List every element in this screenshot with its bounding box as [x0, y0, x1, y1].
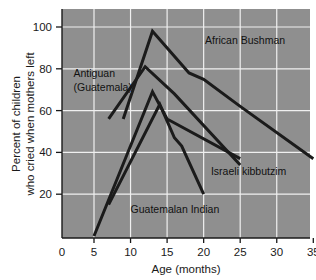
- y-tick-label: 100: [33, 21, 52, 33]
- y-axis-title-line1: Percent of children: [10, 76, 22, 172]
- y-axis-ticks: [56, 27, 62, 194]
- x-tick-label: 30: [270, 246, 283, 258]
- x-tick-label: 10: [124, 246, 137, 258]
- series-label-antiguan-line2: (Guatemala): [74, 81, 132, 93]
- y-tick-label: 40: [39, 146, 52, 158]
- x-tick-label: 5: [91, 246, 97, 258]
- x-axis-title: Age (months): [151, 263, 220, 275]
- y-axis-title-line2: who cried when mothers left: [24, 52, 36, 197]
- x-tick-label: 25: [234, 246, 247, 258]
- y-tick-label: 80: [39, 63, 52, 75]
- y-tick-label: 20: [39, 188, 52, 200]
- x-axis-tick-labels: 05101520253035: [59, 246, 316, 258]
- x-tick-label: 15: [161, 246, 174, 258]
- x-tick-label: 35: [307, 246, 316, 258]
- chart-svg: 05101520253035 20406080100 Age (months) …: [0, 0, 316, 280]
- y-tick-label: 60: [39, 105, 52, 117]
- series-label-guatemalan-indian: Guatemalan Indian: [131, 203, 220, 215]
- series-label-israeli-kibbutzim: Israeli kibbutzim: [211, 165, 287, 177]
- x-tick-label: 0: [59, 246, 65, 258]
- x-tick-label: 20: [197, 246, 210, 258]
- chart-figure: 05101520253035 20406080100 Age (months) …: [0, 0, 316, 280]
- series-label-antiguan-line1: Antiguan: [74, 67, 116, 79]
- x-axis-ticks: [94, 238, 313, 243]
- series-label-african-bushman: African Bushman: [205, 34, 285, 46]
